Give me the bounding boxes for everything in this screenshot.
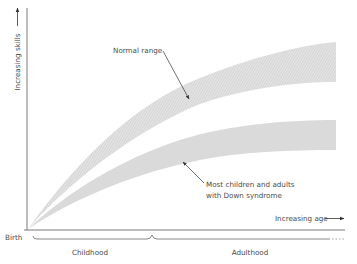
period-brace (33, 235, 330, 239)
x-axis-label: Increasing age (275, 214, 328, 223)
normal-range-label: Normal range (113, 46, 163, 55)
down-syndrome-label-line2: with Down syndrome (206, 191, 282, 200)
y-axis-label: Increasing skills (13, 33, 22, 90)
skills-development-diagram: Increasing skills Increasing age Birth C… (0, 0, 357, 264)
childhood-label: Childhood (72, 248, 108, 257)
adulthood-label: Adulthood (232, 248, 269, 257)
down-syndrome-label-line1: Most children and adults (206, 180, 295, 189)
birth-label: Birth (5, 233, 22, 242)
down-syndrome-pointer-arrow (183, 162, 204, 183)
